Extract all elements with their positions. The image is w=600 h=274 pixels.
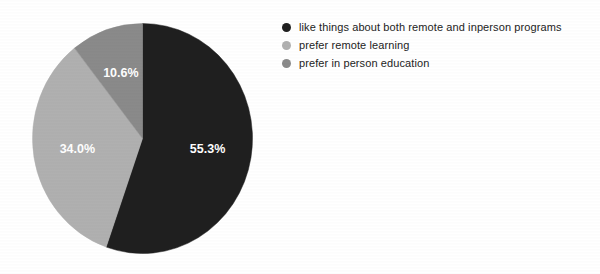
pie-chart-plot-area: 55.3% 34.0% 10.6% [32, 23, 253, 254]
legend-item-prefer-in-person-education[interactable]: prefer in person education [278, 54, 593, 72]
pie-slices [32, 23, 252, 253]
legend-item-label: like things about both remote and inpers… [299, 21, 562, 33]
pie-slice-value-label: 10.6% [103, 66, 138, 80]
pie-chart-figure: 55.3% 34.0% 10.6% like things about both… [0, 0, 600, 274]
pie-slice-value-label: 34.0% [60, 142, 95, 156]
circle-marker-light-gray-icon [282, 41, 291, 50]
chart-legend: like things about both remote and inpers… [278, 18, 593, 72]
pie-slice-value-label: 55.3% [190, 142, 225, 156]
circle-marker-medium-gray-icon [282, 59, 291, 68]
pie-chart-svg: 55.3% 34.0% 10.6% [32, 23, 253, 254]
legend-item-label: prefer in person education [299, 57, 429, 69]
circle-marker-dark-icon [282, 23, 291, 32]
legend-item-like-things-about-both[interactable]: like things about both remote and inpers… [278, 18, 593, 36]
legend-item-prefer-remote-learning[interactable]: prefer remote learning [278, 36, 593, 54]
legend-item-label: prefer remote learning [299, 39, 409, 51]
